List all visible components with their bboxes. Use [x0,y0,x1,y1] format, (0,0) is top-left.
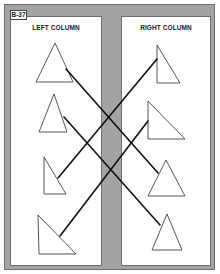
figure-label: B-37 [10,10,27,20]
right-column-panel: RIGHT COLUMN [121,16,211,266]
right-column-title: RIGHT COLUMN [122,24,210,31]
left-column-panel: LEFT COLUMN [10,16,102,266]
left-column-title: LEFT COLUMN [11,24,101,31]
